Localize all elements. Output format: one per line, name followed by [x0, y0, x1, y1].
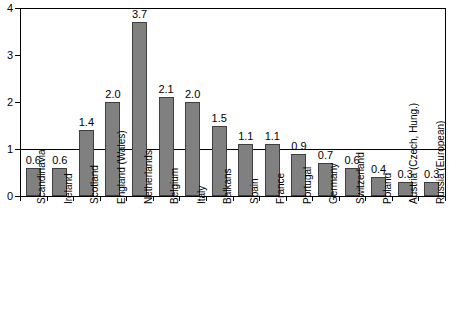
bar-value-label: 3.7: [126, 9, 154, 20]
bar-value-label: 1.5: [205, 113, 233, 124]
x-axis-tick-mark: [73, 197, 74, 201]
x-axis-tick-mark: [233, 197, 234, 201]
x-axis-category-label: Austria (Czech, Hung.): [409, 103, 419, 204]
x-axis-category-label: Russia (European): [436, 121, 446, 204]
x-axis-tick-mark: [206, 197, 207, 201]
bars-layer: 0.6Scandinavia0.6Ireland1.4Scotland2.0En…: [0, 0, 461, 324]
x-axis-tick-mark: [392, 197, 393, 201]
x-axis-category-label: Italy: [197, 186, 207, 204]
bar-value-label: 1.1: [258, 131, 286, 142]
x-axis-tick-mark: [126, 197, 127, 201]
x-axis-category-label: France: [276, 173, 286, 204]
x-axis-tick-mark: [365, 197, 366, 201]
bar-value-label: 0.9: [285, 141, 313, 152]
x-axis-tick-mark: [20, 197, 21, 201]
bar-value-label: 2.0: [179, 89, 207, 100]
x-axis-tick-mark: [418, 197, 419, 201]
bar-value-label: 2.0: [99, 89, 127, 100]
x-axis-tick-mark: [339, 197, 340, 201]
x-axis-tick-mark: [445, 197, 446, 201]
x-axis-category-label: Balkans: [223, 168, 233, 204]
bar-value-label: 0.7: [311, 150, 339, 161]
x-axis-tick-mark: [179, 197, 180, 201]
bar-value-label: 0.6: [46, 155, 74, 166]
bar-value-label: 2.1: [152, 84, 180, 95]
x-axis-tick-mark: [100, 197, 101, 201]
bar: [185, 102, 200, 196]
x-axis-tick-mark: [259, 197, 260, 201]
x-axis-category-label: Germany: [329, 163, 339, 204]
bar-value-label: 1.4: [72, 117, 100, 128]
x-axis-category-label: Scotland: [90, 165, 100, 204]
x-axis-tick-mark: [312, 197, 313, 201]
x-axis-category-label: Netherlands: [144, 150, 154, 204]
x-axis-category-label: England (Wales): [117, 130, 127, 204]
x-axis-tick-mark: [153, 197, 154, 201]
bar-chart: 01234 0.6Scandinavia0.6Ireland1.4Scotlan…: [0, 0, 461, 324]
bar-value-label: 1.1: [232, 131, 260, 142]
x-axis-tick-mark: [286, 197, 287, 201]
x-axis-tick-mark: [47, 197, 48, 201]
